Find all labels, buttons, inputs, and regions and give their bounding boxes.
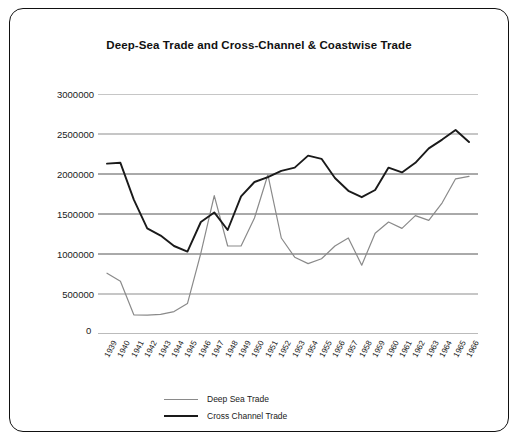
- y-axis-tick-label: 3000000: [57, 89, 94, 100]
- plot-area: [98, 94, 478, 334]
- legend-swatch-cross-channel-trade: [164, 415, 198, 417]
- x-axis-labels: 1939194019411942194319441945194619471948…: [98, 339, 483, 379]
- series-line-cross-channel-trade: [107, 130, 469, 252]
- legend-swatch-deep-sea-trade: [164, 399, 198, 400]
- x-axis-tick-label: 1939: [103, 339, 119, 359]
- x-axis-tick-label: 1951: [264, 339, 280, 359]
- chart-legend: Deep Sea Trade Cross Channel Trade: [10, 394, 508, 421]
- y-axis-labels: 5000001000000150000020000002500000300000…: [10, 94, 94, 334]
- y-axis-tick-label: 1000000: [57, 249, 94, 260]
- chart-frame: Deep-Sea Trade and Cross-Channel & Coast…: [9, 8, 509, 432]
- line-chart-svg: [98, 94, 478, 334]
- chart-title: Deep-Sea Trade and Cross-Channel & Coast…: [10, 39, 508, 51]
- y-axis-tick-label: 2000000: [57, 169, 94, 180]
- legend-label-cross-channel-trade: Cross Channel Trade: [207, 411, 287, 421]
- legend-item-deep-sea-trade: Deep Sea Trade: [164, 394, 354, 404]
- y-axis-zero-label: 0: [86, 325, 91, 336]
- legend-label-deep-sea-trade: Deep Sea Trade: [207, 394, 269, 404]
- y-axis-tick-label: 1500000: [57, 209, 94, 220]
- y-axis-tick-label: 2500000: [57, 129, 94, 140]
- y-axis-tick-label: 500000: [62, 289, 94, 300]
- legend-item-cross-channel-trade: Cross Channel Trade: [164, 411, 354, 421]
